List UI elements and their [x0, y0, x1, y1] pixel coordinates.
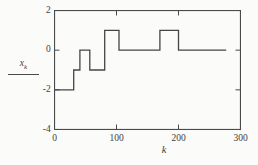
plot-area	[54, 10, 241, 130]
x-tick-label: 300	[226, 133, 256, 144]
y-tick-label: 0	[0, 44, 51, 55]
mathcad-step-plot: xk k 20-2-4 0100200300	[0, 0, 258, 165]
x-tick-label: 200	[164, 133, 194, 144]
y-axis-label: xk	[8, 58, 39, 73]
y-axis-label-subscript: k	[24, 63, 27, 71]
x-tick-label: 100	[102, 133, 132, 144]
x-axis-label: k	[147, 144, 181, 156]
signal-trace	[55, 30, 227, 90]
y-tick-label: -2	[0, 84, 51, 95]
trace-legend-line	[8, 74, 39, 75]
plot-frame	[55, 11, 241, 130]
x-tick-label: 0	[40, 133, 70, 144]
y-tick-label: 2	[0, 5, 51, 16]
